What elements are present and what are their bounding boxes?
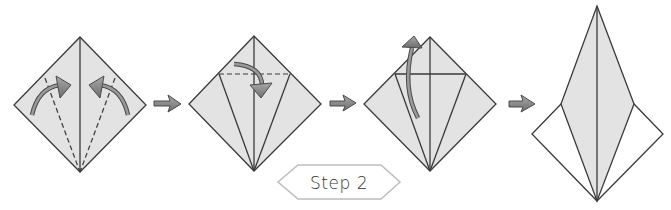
panel-1	[14, 37, 146, 172]
next-step-arrow-icon	[330, 95, 356, 111]
step-label: Step 2	[310, 173, 368, 193]
step-badge: Step 2	[278, 165, 400, 199]
panel-2	[189, 36, 321, 171]
panel-4	[532, 6, 663, 201]
next-step-arrow-icon	[154, 95, 181, 112]
next-step-arrow-icon	[509, 95, 535, 112]
panel-3	[364, 36, 496, 171]
paper-diamond	[189, 36, 321, 171]
origami-diagram: Step 2	[0, 0, 671, 210]
